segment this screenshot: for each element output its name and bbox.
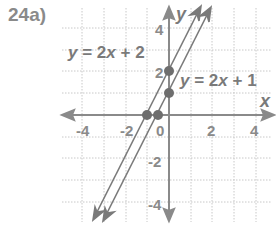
tick-y-4: 4 (155, 21, 164, 38)
tick-y-neg2: -2 (148, 153, 161, 170)
equation-label-1: y = 2x + 2 (67, 43, 145, 62)
point-neg0.5-0 (153, 110, 163, 120)
point-neg1-0 (142, 110, 152, 120)
tick-x-4: 4 (250, 122, 259, 139)
y-axis-label: y (175, 4, 187, 24)
x-axis-label: x (259, 91, 271, 111)
equation-label-2: y = 2x + 1 (179, 71, 257, 90)
point-0-1 (164, 88, 174, 98)
tick-x-0: 0 (156, 122, 164, 139)
tick-y-neg4: -4 (148, 196, 162, 213)
tick-x-neg4: -4 (76, 122, 90, 139)
tick-x-2: 2 (207, 122, 215, 139)
point-0-2 (164, 66, 174, 76)
tick-x-neg2: -2 (120, 122, 133, 139)
coordinate-plane: -4 -2 0 2 4 4 2 -2 -4 y x y = 2x + 2 y =… (0, 0, 276, 225)
tick-y-2: 2 (155, 64, 163, 81)
